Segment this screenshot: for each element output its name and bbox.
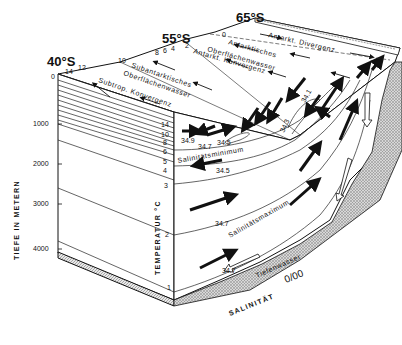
block-diagram: 40°S 55°S 65°S 0 14 12 10 8 6 4 2 0 Subt…	[0, 0, 402, 345]
surface-tick: 0	[222, 31, 226, 38]
surface-tick: 4	[171, 45, 175, 52]
sal-label: 34.7	[198, 143, 212, 150]
surface-tick: 10	[118, 57, 126, 64]
depth-tick-2000: 2000	[33, 160, 49, 167]
depth-axis-label: TIEFE IN METERN	[13, 180, 20, 260]
sal-label: 34.5	[217, 139, 231, 146]
temp-tick: 8	[163, 139, 167, 146]
surface-tick: 14	[65, 68, 73, 75]
temp-tick: 3	[164, 182, 168, 189]
temp-tick: 4	[163, 167, 167, 174]
surface-tick: 12	[78, 64, 86, 71]
salinity-unit: 0/00	[283, 267, 306, 285]
surface-tick: 8	[155, 49, 159, 56]
lat-40s: 40°S	[47, 54, 76, 69]
temp-tick: 10	[161, 131, 169, 138]
sal-label: 34.7	[215, 220, 229, 227]
temp-tick: 6	[163, 148, 167, 155]
salinity-axis-label: SALINITÄT	[228, 292, 275, 317]
sal-label: 34.5	[216, 167, 230, 174]
depth-tick-4000: 4000	[33, 245, 49, 252]
temperature-axis-label: TEMPERATUR °C	[154, 200, 161, 275]
surface-tick: 2	[185, 42, 189, 49]
sal-label: 34.7	[222, 267, 236, 274]
temp-tick: 1	[167, 284, 171, 291]
lat-65s: 65°S	[236, 10, 265, 25]
sal-label: 34.9	[181, 137, 195, 144]
depth-tick-1000: 1000	[33, 120, 49, 127]
temp-tick: 2	[165, 231, 169, 238]
surface-tick: 0	[51, 73, 55, 80]
surface-tick: 6	[163, 47, 167, 54]
temp-tick: 14	[161, 121, 169, 128]
depth-tick-3000: 3000	[33, 200, 49, 207]
temp-tick: 5	[163, 158, 167, 165]
